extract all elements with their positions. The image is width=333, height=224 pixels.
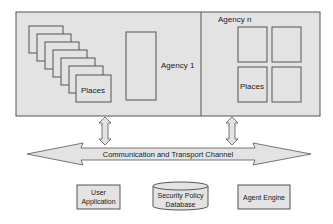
agency-1-block — [126, 32, 156, 100]
agency-architecture-diagram: Places Agency 1 Agency n Places Communic… — [0, 0, 333, 224]
security-db-label-line2: Database — [166, 201, 196, 208]
user-application-label-line1: User — [91, 189, 106, 196]
agency-n-label: Agency n — [218, 15, 251, 24]
agency-n-places-label: Places — [240, 82, 264, 91]
security-db-label-line1: Security Policy — [158, 192, 204, 200]
agency-1-places-label: Places — [81, 86, 105, 95]
user-application-label-line2: Application — [81, 198, 115, 206]
communication-channel-label: Communication and Transport Channel — [103, 150, 234, 159]
agency-1-label: Agency 1 — [161, 61, 195, 70]
agency-n-link-arrow — [226, 117, 238, 145]
agent-engine-label: Agent Engine — [243, 194, 285, 202]
agency-1-link-arrow — [99, 117, 111, 145]
